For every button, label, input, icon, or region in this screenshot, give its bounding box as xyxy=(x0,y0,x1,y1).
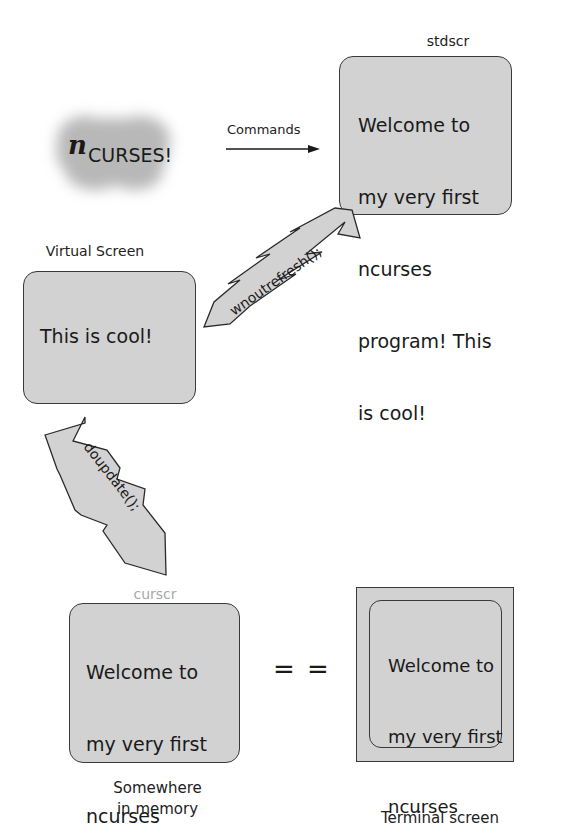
text-line: my very first xyxy=(388,725,515,749)
text-line: my very first xyxy=(86,732,220,756)
terminal-screen: Welcome to my very first ncurses program… xyxy=(356,587,514,762)
ncurses-logo: n CURSES! xyxy=(40,100,185,205)
text-line: ncurses xyxy=(358,257,492,281)
caption-line: in memory xyxy=(85,799,230,820)
virtual-screen-window: This is cool! xyxy=(23,271,196,404)
text-line: is cool! xyxy=(358,401,492,425)
terminal-caption: Terminal screen xyxy=(370,809,510,827)
arrow-right-icon xyxy=(222,122,332,162)
text-line: Welcome to xyxy=(388,654,515,678)
commands-arrow: Commands xyxy=(222,122,332,162)
text-line: my very first xyxy=(358,185,492,209)
terminal-content: Welcome to my very first ncurses program… xyxy=(388,607,515,837)
curscr-caption: Somewhere in memory xyxy=(85,778,230,820)
stdscr-label: stdscr xyxy=(398,33,498,49)
doupdate-arrow: doupdate(); xyxy=(45,415,175,590)
stdscr-content: Welcome to my very first ncurses program… xyxy=(358,65,492,473)
stdscr-window: Welcome to my very first ncurses program… xyxy=(339,56,512,215)
logo-prefix: n xyxy=(68,130,87,160)
text-line: Welcome to xyxy=(86,660,220,684)
terminal-window: Welcome to my very first ncurses program… xyxy=(369,600,502,748)
curscr-window: Welcome to my very first ncurses program… xyxy=(69,603,240,763)
text-line: program! This xyxy=(358,329,492,353)
virtual-screen-label: Virtual Screen xyxy=(30,243,160,259)
text-line: Welcome to xyxy=(358,113,492,137)
lightning-arrow-icon: doupdate(); xyxy=(45,415,175,590)
lightning-arrow-icon: wnoutrefresh(); xyxy=(200,210,370,340)
virtual-screen-content: This is cool! xyxy=(40,324,153,348)
equals-sign: = = xyxy=(273,654,331,684)
caption-line: Somewhere xyxy=(85,778,230,799)
curscr-label: curscr xyxy=(115,586,195,602)
wnoutrefresh-arrow: wnoutrefresh(); xyxy=(200,210,370,340)
logo-text: CURSES! xyxy=(88,144,172,166)
